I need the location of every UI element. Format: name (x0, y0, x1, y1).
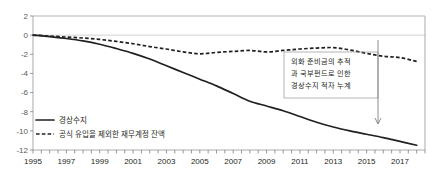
legend-label-current-account: 경상수지 (59, 115, 87, 125)
y-tick-label: 2 (24, 12, 29, 21)
chart-container: 20-2-4-6-8-10-12 19951997199920012003200… (0, 0, 448, 175)
y-tick-label: -4 (21, 69, 29, 78)
x-tick-label: 2011 (291, 157, 309, 166)
y-tick-label: -2 (21, 50, 29, 59)
annotation-line-3: 경상수지 적자 누계 (291, 81, 351, 90)
x-tick-label: 2001 (124, 157, 142, 166)
y-tick-label: 0 (24, 31, 29, 40)
x-tick-label: 1999 (91, 157, 109, 166)
y-tick-label: -10 (16, 127, 28, 136)
x-tick-label: 2017 (391, 157, 409, 166)
x-tick-label: 2009 (258, 157, 276, 166)
x-tick-label: 1995 (24, 157, 42, 166)
annotation-line-2: 과 국부펀드로 인한 (291, 69, 351, 78)
y-tick-label: -8 (21, 108, 29, 117)
x-tick-label: 2007 (224, 157, 242, 166)
y-tick-label: -6 (21, 88, 29, 97)
x-axis-ticks: 1995199719992001200320052007200920112013… (24, 150, 425, 166)
line-chart: 20-2-4-6-8-10-12 19951997199920012003200… (0, 0, 448, 175)
y-axis-ticks: 20-2-4-6-8-10-12 (16, 12, 33, 155)
legend-label-financial-account: 공식 유입을 제외한 재무계정 잔액 (59, 129, 165, 139)
x-tick-label: 1997 (57, 157, 75, 166)
x-tick-label: 2003 (158, 157, 176, 166)
x-tick-label: 2015 (358, 157, 376, 166)
x-tick-label: 2013 (324, 157, 342, 166)
y-tick-label: -12 (16, 146, 28, 155)
x-tick-label: 2005 (191, 157, 209, 166)
annotation-line-1: 외화 준비금의 추적 (291, 57, 351, 66)
